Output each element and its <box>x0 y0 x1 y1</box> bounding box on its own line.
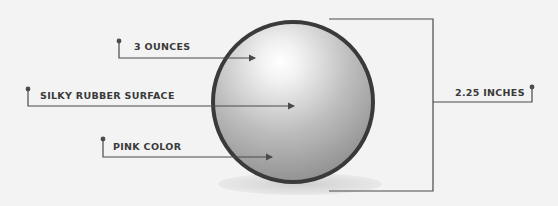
color-label: PINK COLOR <box>113 141 181 152</box>
diameter-label: 2.25 INCHES <box>455 87 525 98</box>
ball-diagram <box>0 0 558 206</box>
weight-label: 3 OUNCES <box>134 41 190 52</box>
surface-label: SILKY RUBBER SURFACE <box>40 90 175 101</box>
ball <box>213 22 373 182</box>
